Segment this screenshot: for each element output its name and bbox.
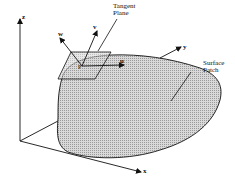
diagram-graphics: [0, 0, 235, 186]
v-label: v: [93, 24, 97, 31]
y-axis-start: [20, 121, 58, 141]
tangent-plane-label: Tangent Plane: [113, 3, 135, 17]
z-axis-label: z: [22, 14, 25, 21]
w-label: w: [58, 31, 63, 38]
x-axis-label: x: [143, 168, 147, 175]
u-label: u: [120, 58, 124, 65]
y-axis-label: y: [183, 44, 187, 51]
surface-patch-label: Surface Patch: [203, 60, 224, 74]
surface-patch-diagram: z x y u v w P Tangent Plane Surface Patc…: [0, 0, 235, 186]
point-p-label: P: [78, 64, 81, 71]
tangent-plane-leader: [98, 19, 117, 51]
y-axis-end: [160, 47, 181, 58]
